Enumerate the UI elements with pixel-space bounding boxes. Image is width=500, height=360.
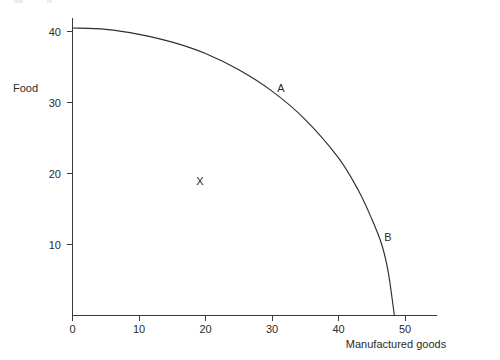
- x-tick-label-0: 0: [69, 323, 75, 335]
- y-tick-label-20: 20: [49, 168, 61, 180]
- x-tick-label-40: 40: [332, 323, 344, 335]
- x-tick-label-20: 20: [199, 323, 211, 335]
- y-axis-title: Food: [13, 82, 38, 94]
- ppf-chart: 40 30 20 10 0 10 20 30 40 50 Food Manufa…: [0, 0, 500, 360]
- point-label-a: A: [277, 82, 285, 94]
- x-axis-title: Manufactured goods: [346, 338, 447, 350]
- ppf-curve: [73, 28, 395, 316]
- x-tick-label-10: 10: [133, 323, 145, 335]
- y-tick-label-40: 40: [49, 26, 61, 38]
- point-label-x: X: [196, 175, 204, 187]
- y-tick-label-10: 10: [49, 239, 61, 251]
- x-tick-label-30: 30: [266, 323, 278, 335]
- y-tick-label-30: 30: [49, 97, 61, 109]
- x-tick-label-50: 50: [399, 323, 411, 335]
- point-label-b: B: [384, 231, 391, 243]
- chart-canvas: 40 30 20 10 0 10 20 30 40 50 Food Manufa…: [0, 0, 500, 360]
